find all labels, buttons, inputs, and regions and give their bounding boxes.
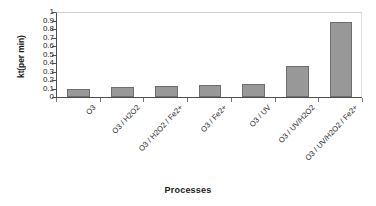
bar	[286, 66, 309, 97]
x-axis-tick-label: O3 / H2O2 / Fe2+	[137, 103, 185, 153]
bar-chart: kt(per min) 10.90.80.70.60.50.40.30.20.1…	[0, 0, 376, 206]
x-axis-tick-label: O3	[84, 103, 97, 117]
y-axis-tick-mark	[52, 89, 56, 90]
y-axis-tick-mark	[52, 80, 56, 81]
bar	[242, 84, 265, 97]
x-axis-line	[56, 97, 362, 98]
x-axis-tick-label: O3 / H2O2	[110, 103, 141, 136]
x-axis-tick-mark	[231, 98, 232, 102]
y-axis-title: kt(per min)	[14, 14, 28, 100]
y-axis-tick-mark	[52, 63, 56, 64]
x-axis-tick-mark	[275, 98, 276, 102]
bars-layer	[57, 12, 362, 97]
x-axis-tick-labels: O3O3 / H2O2O3 / H2O2 / Fe2+O3 / Fe2+O3 /…	[0, 99, 376, 179]
x-axis-tick-label: O3 / UV	[247, 103, 272, 129]
y-axis-tick-labels: 10.90.80.70.60.50.40.30.20.10	[30, 10, 54, 98]
x-axis-tick-mark	[362, 98, 363, 102]
x-axis-tick-mark	[318, 98, 319, 102]
bar	[155, 86, 178, 97]
bar	[199, 85, 222, 97]
bar	[330, 22, 353, 97]
x-axis-tick-label: O3 / UV/H2O2	[276, 103, 316, 145]
y-axis-tick-mark	[52, 72, 56, 73]
bar	[111, 87, 134, 97]
x-axis-title: Processes	[0, 185, 376, 195]
y-axis-tick-mark	[52, 12, 56, 13]
x-axis-tick-label: O3 / Fe2+	[199, 103, 229, 134]
x-axis-tick-mark	[187, 98, 188, 102]
y-axis-tick-mark	[52, 29, 56, 30]
y-axis-tick-mark	[52, 21, 56, 22]
y-axis-tick-mark	[52, 46, 56, 47]
x-axis-tick-mark	[100, 98, 101, 102]
y-axis-tick-mark	[52, 38, 56, 39]
y-axis-tick-mark	[52, 55, 56, 56]
x-axis-tick-mark	[56, 98, 57, 102]
bar	[67, 89, 90, 98]
x-axis-tick-mark	[143, 98, 144, 102]
